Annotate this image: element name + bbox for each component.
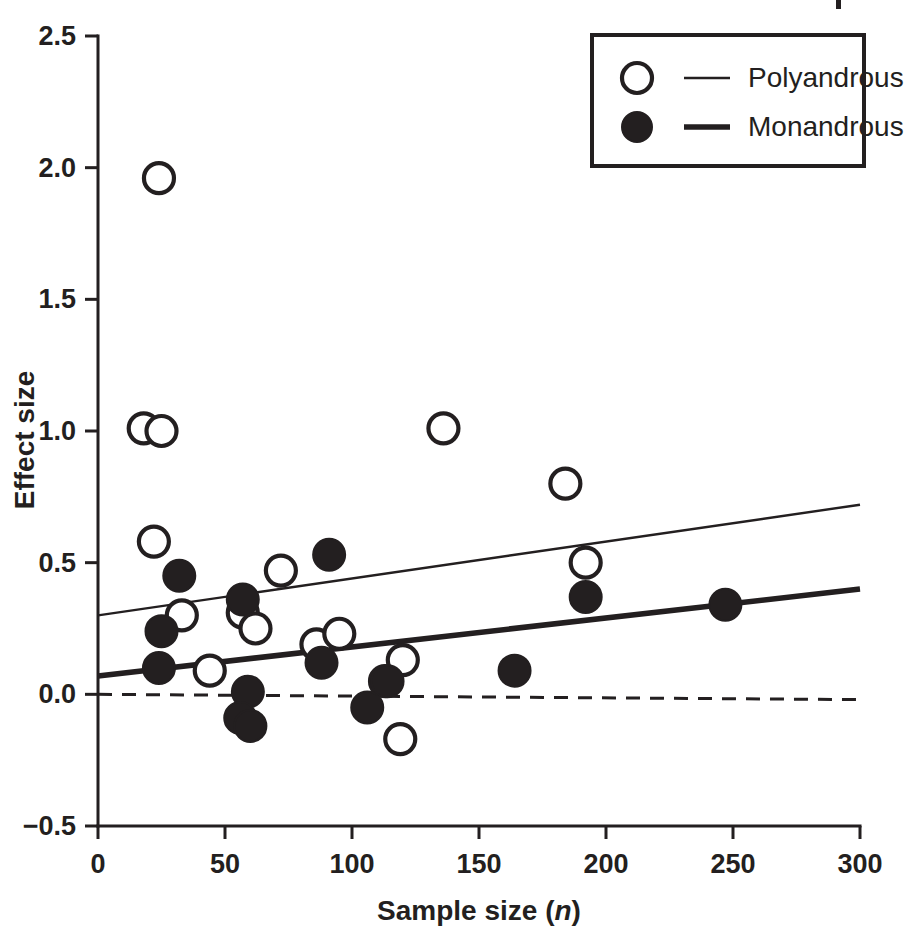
legend-label-polyandrous: Polyandrous (748, 62, 904, 93)
y-tick-label: 1.5 (38, 284, 76, 314)
x-tick-label: 250 (710, 849, 755, 879)
data-point (709, 589, 741, 621)
polyandrous-fit-line (98, 505, 860, 616)
scan-speck (836, 0, 841, 9)
y-tick-label: 2.0 (38, 153, 76, 183)
monandrous-points (143, 539, 741, 742)
y-tick-label: −0.5 (23, 811, 76, 841)
data-point (499, 655, 531, 687)
data-point (139, 527, 169, 557)
data-point (570, 581, 602, 613)
scatter-plot-figure: −0.50.00.51.01.52.02.5 05010015020025030… (0, 0, 912, 943)
data-point (240, 614, 270, 644)
legend-label-monandrous: Monandrous (748, 111, 904, 142)
legend-open-circle-icon (622, 63, 652, 93)
x-tick-label: 0 (90, 849, 105, 879)
data-point (227, 584, 259, 616)
data-point (324, 619, 354, 649)
data-point (428, 413, 458, 443)
data-point (147, 416, 177, 446)
data-point (550, 469, 580, 499)
legend[interactable]: Polyandrous Monandrous (592, 35, 904, 166)
data-point (266, 556, 296, 586)
data-point (146, 615, 178, 647)
legend-filled-circle-icon (622, 112, 652, 142)
y-tick-label: 0.5 (38, 548, 76, 578)
data-point (144, 163, 174, 193)
x-axis-title: Sample size (n) (377, 895, 581, 926)
x-tick-label: 150 (456, 849, 501, 879)
zero-reference-line (98, 694, 860, 699)
x-tick-label: 200 (583, 849, 628, 879)
data-point (195, 656, 225, 686)
legend-border (592, 35, 864, 166)
x-tick-label: 50 (210, 849, 240, 879)
data-point (143, 652, 175, 684)
y-tick-label: 2.5 (38, 21, 76, 51)
x-axis-tick-labels: 050100150200250300 (90, 849, 882, 879)
x-tick-label: 300 (837, 849, 882, 879)
data-point (313, 539, 345, 571)
y-tick-label: 1.0 (38, 416, 76, 446)
data-point (234, 710, 266, 742)
data-point (385, 724, 415, 754)
data-point (351, 692, 383, 724)
x-tick-label: 100 (329, 849, 374, 879)
data-point (163, 560, 195, 592)
data-point (571, 548, 601, 578)
y-tick-label: 0.0 (38, 679, 76, 709)
chart-canvas: −0.50.00.51.01.52.02.5 05010015020025030… (0, 0, 912, 943)
data-point (306, 647, 338, 679)
y-axis-title: Effect size (9, 371, 40, 510)
data-point (372, 665, 404, 697)
